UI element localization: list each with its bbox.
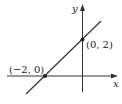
point-0-2 xyxy=(81,38,85,42)
coordinate-plane: y x (0, 2) (−2, 0) xyxy=(0,0,122,104)
point-label-neg2-0: (−2, 0) xyxy=(9,64,44,75)
x-axis-label: x xyxy=(113,78,119,89)
graph-line xyxy=(26,21,101,94)
point-label-0-2: (0, 2) xyxy=(86,39,113,50)
y-axis-arrow-icon xyxy=(80,4,85,11)
y-axis-label: y xyxy=(71,3,78,14)
